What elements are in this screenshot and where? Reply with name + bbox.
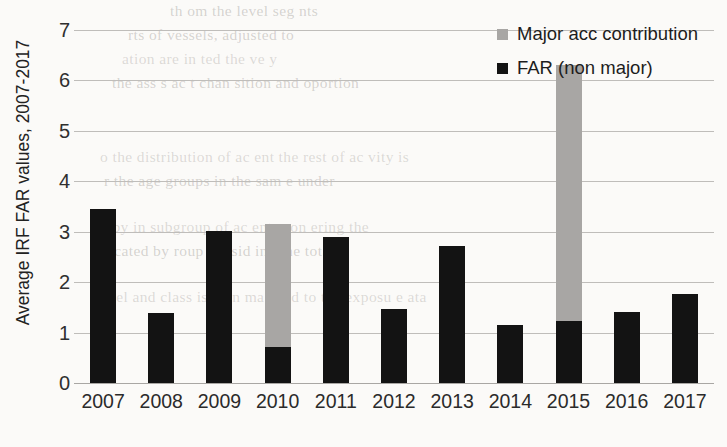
- bar-segment[interactable]: [381, 309, 407, 383]
- y-tick-label: 4: [59, 170, 70, 193]
- x-tick-label: 2014: [489, 390, 532, 413]
- bar-segment[interactable]: [323, 237, 349, 383]
- y-tick-label: 1: [59, 321, 70, 344]
- y-tick-label: 3: [59, 220, 70, 243]
- x-tick-label: 2016: [605, 390, 648, 413]
- bar-segment[interactable]: [672, 294, 698, 383]
- bar-group[interactable]: [439, 30, 465, 383]
- y-tick-label: 2: [59, 271, 70, 294]
- bar-group[interactable]: [381, 30, 407, 383]
- bar-segment[interactable]: [148, 313, 174, 383]
- y-tick-label: 5: [59, 119, 70, 142]
- gridline: [74, 383, 714, 384]
- y-tick-label: 0: [59, 372, 70, 395]
- chart-page: th om the level seg nts rts of vessels, …: [0, 0, 727, 447]
- bar-group[interactable]: [323, 30, 349, 383]
- y-axis-title: Average IRF FAR values, 2007-2017: [13, 0, 34, 378]
- legend-swatch-icon: [497, 63, 508, 74]
- x-tick-label: 2008: [140, 390, 183, 413]
- bar-segment[interactable]: [497, 325, 523, 383]
- x-tick-label: 2007: [81, 390, 124, 413]
- legend-item-major-acc-contribution: Major acc contribution: [497, 23, 698, 45]
- x-tick-label: 2012: [372, 390, 415, 413]
- legend-label: FAR (non major): [517, 57, 653, 79]
- x-tick-label: 2009: [198, 390, 241, 413]
- x-tick-label: 2011: [315, 390, 357, 413]
- bar-segment[interactable]: [556, 321, 582, 383]
- x-tick-label: 2017: [663, 390, 706, 413]
- legend-label: Major acc contribution: [517, 23, 698, 45]
- bar-segment[interactable]: [265, 224, 291, 347]
- bar-group[interactable]: [148, 30, 174, 383]
- y-tick-label: 7: [59, 19, 70, 42]
- bar-group[interactable]: [90, 30, 116, 383]
- y-tick-label: 6: [59, 69, 70, 92]
- x-axis-tick-labels: 2007200820092010201120122013201420152016…: [74, 390, 714, 420]
- x-tick-label: 2010: [256, 390, 299, 413]
- bar-group[interactable]: [265, 30, 291, 383]
- bar-group[interactable]: [206, 30, 232, 383]
- bar-segment[interactable]: [439, 246, 465, 383]
- bar-segment[interactable]: [614, 312, 640, 383]
- bar-segment[interactable]: [206, 231, 232, 383]
- x-tick-label: 2013: [430, 390, 473, 413]
- y-axis-tick-labels: 01234567: [36, 30, 70, 383]
- bar-segment[interactable]: [265, 347, 291, 383]
- bar-segment[interactable]: [556, 65, 582, 321]
- legend: Major acc contribution FAR (non major): [497, 23, 698, 91]
- background-text-line: th om the level seg nts: [170, 2, 318, 20]
- bar-segment[interactable]: [90, 209, 116, 383]
- x-tick-label: 2015: [547, 390, 590, 413]
- legend-item-far-non-major: FAR (non major): [497, 57, 698, 79]
- legend-swatch-icon: [497, 29, 508, 40]
